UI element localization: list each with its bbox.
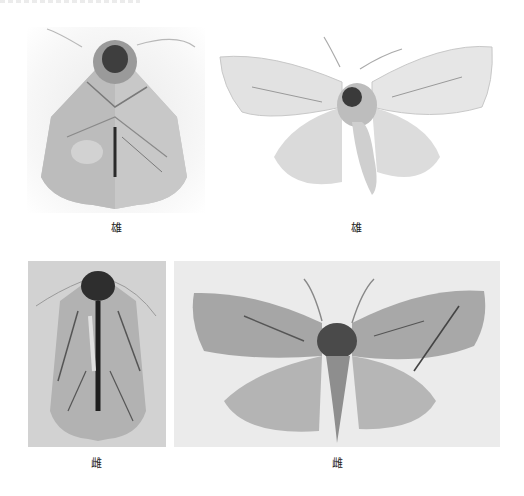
cropped-text-line (0, 0, 140, 3)
photo-male-resting (27, 27, 205, 213)
caption-top-left: 雄 (111, 223, 122, 234)
photo-male-spread (212, 27, 502, 213)
moth-illustration (28, 261, 166, 447)
caption-bottom-right: 雌 (332, 458, 343, 469)
photo-female-resting (28, 261, 166, 447)
moth-illustration (174, 261, 500, 447)
caption-bottom-left: 雌 (91, 458, 102, 469)
caption-top-right: 雄 (351, 223, 362, 234)
moth-illustration (212, 27, 502, 213)
photo-female-spread (174, 261, 500, 447)
moth-illustration (27, 27, 205, 213)
